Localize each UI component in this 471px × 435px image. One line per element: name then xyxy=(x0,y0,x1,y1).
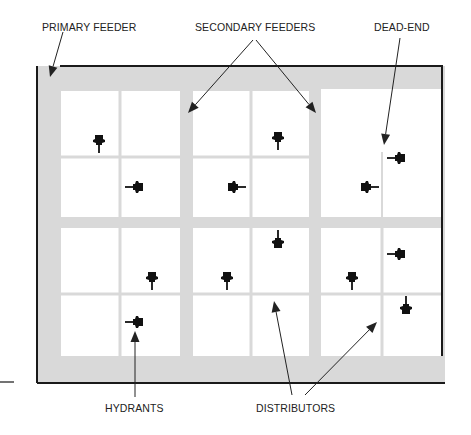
label-hydrants: HYDRANTS xyxy=(105,402,164,414)
block-top-middle xyxy=(193,91,309,217)
distributor-vertical xyxy=(119,228,122,356)
block-top-right xyxy=(321,89,442,217)
label-dead-end: DEAD-END xyxy=(374,21,430,33)
block-bottom-left xyxy=(61,228,180,356)
block-bottom-middle xyxy=(193,228,309,356)
block-top-left xyxy=(61,91,180,217)
label-secondary-feeders: SECONDARY FEEDERS xyxy=(195,21,315,33)
distributor-vertical xyxy=(250,91,253,217)
water-distribution-diagram: PRIMARY FEEDER SECONDARY FEEDERS DEAD-EN… xyxy=(0,0,471,435)
block-bottom-right xyxy=(321,228,442,356)
label-primary-feeder: PRIMARY FEEDER xyxy=(42,21,136,33)
arrow-shaft xyxy=(53,32,63,66)
distributor-vertical xyxy=(119,91,122,217)
distributor-vertical xyxy=(381,228,384,356)
dead-end-main xyxy=(381,152,383,217)
label-distributors: DISTRIBUTORS xyxy=(256,402,335,414)
distributor-vertical xyxy=(250,228,253,356)
grid-system-drawing xyxy=(0,0,471,435)
